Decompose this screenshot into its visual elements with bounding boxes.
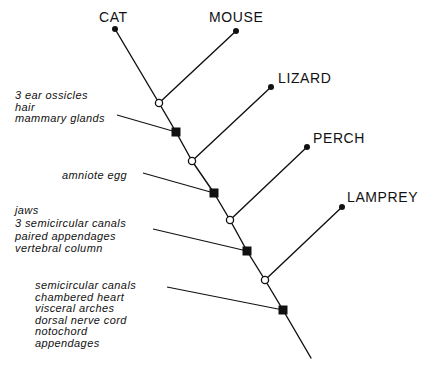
trait-label: semicircular canals: [35, 279, 136, 291]
tip-dot-mouse: [233, 28, 239, 34]
tip-dot-perch: [304, 144, 310, 150]
trait-label: 3 ear ossicles: [15, 89, 88, 101]
branch-node-2: [188, 157, 195, 164]
taxon-label-lamprey: LAMPREY: [347, 189, 418, 205]
trait-label: paired appendages: [14, 230, 116, 242]
tip-dot-lamprey: [339, 204, 345, 210]
tip-dot-cat: [112, 26, 118, 32]
character-square-4: [279, 306, 288, 315]
trait-label: jaws: [13, 204, 39, 216]
taxon-label-lizard: LIZARD: [278, 70, 331, 86]
taxon-label-mouse: MOUSE: [209, 9, 263, 25]
pointer-vertebrate-traits: [153, 229, 247, 251]
taxon-label-cat: CAT: [99, 9, 128, 25]
trait-label: hair: [15, 101, 36, 113]
taxon-label-perch: PERCH: [313, 130, 365, 146]
trait-label: vertebral column: [15, 242, 103, 254]
trait-label: chambered heart: [35, 291, 125, 303]
trait-label: 3 semicircular canals: [15, 217, 126, 229]
branch-node-4: [261, 276, 268, 283]
character-square-1: [172, 128, 181, 137]
cladogram: CAT MOUSE LIZARD PERCH LAMPREY 3 ear oss…: [0, 0, 432, 367]
character-square-3: [243, 247, 252, 256]
pointer-amniote-traits: [143, 173, 214, 193]
branch-lamprey: [265, 207, 342, 280]
branch-node-1: [155, 99, 162, 106]
trait-label: notochord: [35, 325, 88, 337]
pointer-chordate-traits: [167, 287, 283, 310]
trait-label: appendages: [35, 337, 100, 349]
trait-label: mammary glands: [15, 112, 105, 124]
trait-label: amniote egg: [62, 169, 127, 181]
branch-perch: [230, 147, 307, 220]
branch-node-3: [226, 216, 233, 223]
branch-mouse: [159, 31, 236, 103]
character-square-2: [210, 189, 219, 198]
trait-label: dorsal nerve cord: [35, 314, 127, 326]
tip-dot-lizard: [268, 84, 274, 90]
branch-lizard: [192, 87, 271, 161]
trait-label: visceral arches: [35, 302, 114, 314]
